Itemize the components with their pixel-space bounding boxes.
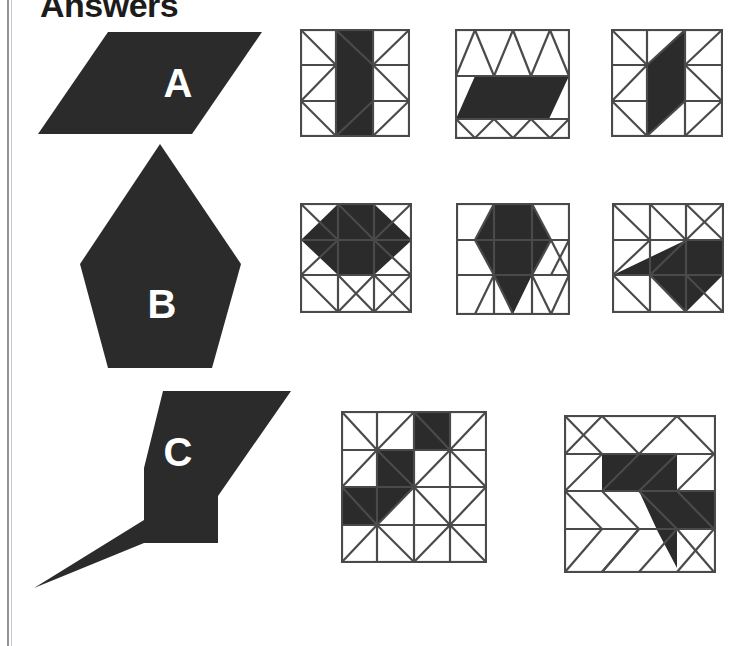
prompt-shape-a-label: A [164, 61, 193, 105]
answer-grid-a-2[interactable] [455, 29, 570, 139]
prompt-shape-c: C [28, 388, 293, 593]
answer-grid-b-2[interactable] [456, 203, 570, 315]
answer-grid-a-3[interactable] [611, 29, 723, 137]
prompt-shape-c-label: C [164, 430, 193, 474]
prompt-shape-b: B [78, 142, 243, 372]
answer-grid-a-1[interactable] [300, 29, 410, 137]
page-title: Answers [40, 0, 178, 25]
page-frame-left-rule-secondary [11, 0, 12, 646]
page-frame-left-rule [7, 0, 9, 646]
answers-page: Answers A [0, 0, 756, 646]
answer-grid-b-1[interactable] [300, 203, 412, 313]
answer-grid-c-1[interactable] [341, 411, 487, 563]
answer-grid-c-2[interactable] [564, 415, 716, 573]
answer-grid-b-3[interactable] [612, 203, 724, 313]
prompt-shape-a: A [35, 28, 265, 138]
prompt-shape-b-label: B [148, 282, 177, 326]
